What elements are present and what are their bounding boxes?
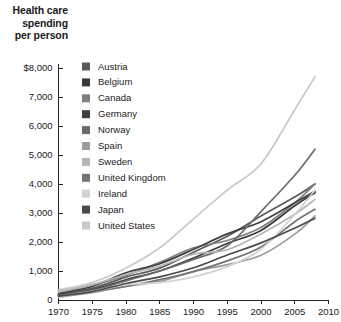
x-tick-label: 1970 <box>48 306 69 317</box>
x-tick-label: 1995 <box>217 306 238 317</box>
y-tick-label: 5,000 <box>29 149 53 160</box>
title-line-1: Health care <box>0 4 68 17</box>
x-tick-label: 2000 <box>250 306 271 317</box>
legend-label: Austria <box>98 61 128 72</box>
y-tick-label: 1,000 <box>29 265 53 276</box>
legend-label: Germany <box>98 108 137 119</box>
y-tick-label: 4,000 <box>29 178 53 189</box>
legend-swatch <box>82 206 90 214</box>
chart-canvas: 01,0002,0003,0004,0005,0006,0007,000$8,0… <box>0 0 341 322</box>
title-line-2: spending <box>0 17 68 30</box>
legend-swatch <box>82 94 90 102</box>
y-tick-label: 3,000 <box>29 207 53 218</box>
y-tick-label: 6,000 <box>29 120 53 131</box>
x-tick-label: 2005 <box>284 306 305 317</box>
series-lines <box>59 77 316 298</box>
x-tick-label: 1975 <box>82 306 103 317</box>
legend-label: Japan <box>98 204 124 215</box>
chart-legend: AustriaBelgiumCanadaGermanyNorwaySpainSw… <box>82 61 166 231</box>
legend-swatch <box>82 78 90 86</box>
page-title: Health care spending per person <box>0 4 68 42</box>
legend-swatch <box>82 110 90 118</box>
legend-swatch <box>82 142 90 150</box>
legend-label: Sweden <box>98 156 132 167</box>
legend-label: United Kingdom <box>98 172 166 183</box>
series-line <box>59 184 316 292</box>
legend-swatch <box>82 222 90 230</box>
legend-label: United States <box>98 220 155 231</box>
y-tick-label: $8,000 <box>23 62 52 73</box>
health-care-spending-chart: Health care spending per person 01,0002,… <box>0 0 341 322</box>
title-line-3: per person <box>0 29 68 42</box>
x-axis: 197019751980198519901995200020052010 <box>48 300 339 317</box>
legend-swatch <box>82 158 90 166</box>
legend-label: Belgium <box>98 76 132 87</box>
legend-swatch <box>82 174 90 182</box>
x-tick-label: 1980 <box>115 306 136 317</box>
legend-swatch <box>82 126 90 134</box>
legend-label: Ireland <box>98 188 127 199</box>
x-tick-label: 1990 <box>183 306 204 317</box>
legend-label: Canada <box>98 92 132 103</box>
x-tick-label: 2010 <box>318 306 339 317</box>
legend-swatch <box>82 190 90 198</box>
y-axis: 01,0002,0003,0004,0005,0006,0007,000$8,0… <box>23 62 62 305</box>
legend-swatch <box>82 63 90 71</box>
y-tick-label: 7,000 <box>29 91 53 102</box>
y-tick-label: 2,000 <box>29 236 53 247</box>
x-tick-label: 1985 <box>149 306 170 317</box>
y-tick-label: 0 <box>47 294 52 305</box>
series-line <box>59 77 316 290</box>
legend-label: Norway <box>98 124 130 135</box>
legend-label: Spain <box>98 140 122 151</box>
